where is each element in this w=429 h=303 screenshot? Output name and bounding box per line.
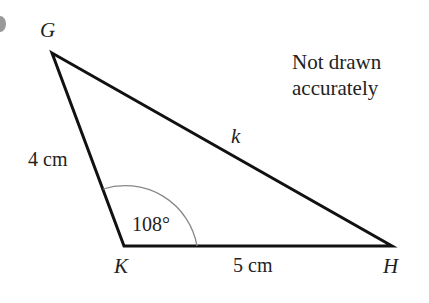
vertex-label-k: K xyxy=(114,254,128,279)
side-label-kh: 5 cm xyxy=(233,254,272,277)
side-label-gk: 4 cm xyxy=(28,148,67,171)
vertex-label-h: H xyxy=(383,254,398,279)
note-line-2: accurately xyxy=(292,76,378,101)
angle-label-k: 108° xyxy=(132,213,170,236)
side-label-gh: k xyxy=(231,124,240,149)
vertex-label-g: G xyxy=(40,18,55,43)
note-line-1: Not drawn xyxy=(292,50,381,75)
